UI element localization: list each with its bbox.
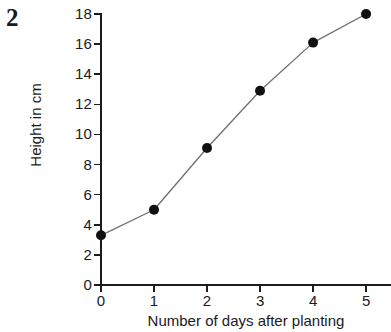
data-point bbox=[255, 86, 265, 96]
series-layer bbox=[0, 0, 391, 332]
series-markers bbox=[96, 9, 371, 240]
data-point bbox=[361, 9, 371, 19]
data-point bbox=[96, 230, 106, 240]
data-point bbox=[202, 143, 212, 153]
line-chart-figure: 024681012141618 012345 Height in cm Numb… bbox=[0, 0, 391, 332]
series-line bbox=[101, 14, 366, 235]
data-point bbox=[308, 38, 318, 48]
data-point bbox=[149, 205, 159, 215]
